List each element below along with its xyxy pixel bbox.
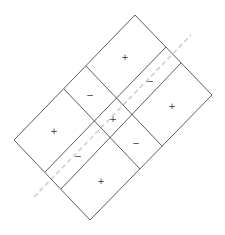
sign-center: + (109, 114, 117, 124)
sign-top-strip-middle: − (86, 90, 94, 100)
sign-bottom-strip-middle: − (132, 138, 140, 148)
sign-top-strip-right: + (121, 52, 129, 62)
sign-middle-strip-left: − (74, 151, 82, 161)
region-signs: +−+−+−+−+ (50, 52, 176, 186)
strip-line-2 (61, 63, 181, 189)
sign-bottom-strip-left: + (97, 176, 105, 186)
sign-middle-strip-right: − (146, 76, 154, 86)
sign-grid-diagram: +−+−+−+−+ (0, 0, 225, 235)
sign-bottom-strip-right: + (168, 101, 176, 111)
sign-top-strip-left: + (50, 126, 58, 136)
strip-line-1 (45, 47, 166, 172)
